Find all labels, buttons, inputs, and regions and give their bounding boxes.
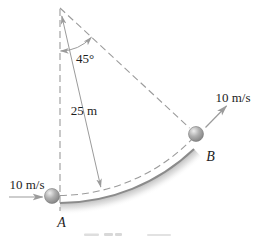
speed-label-a: 10 m/s	[9, 177, 44, 192]
point-b-label: B	[206, 149, 215, 164]
point-a-label: A	[56, 215, 66, 230]
ball-at-a	[45, 189, 60, 204]
track-shading	[60, 149, 203, 215]
radius-label: 25 m	[71, 103, 97, 118]
speed-label-b: 10 m/s	[215, 90, 250, 105]
pendulum-arc-figure: 45° 25 m 10 m/s 10 m/s A B	[0, 0, 262, 236]
angle-label: 45°	[76, 51, 94, 66]
angle-arc	[61, 37, 92, 51]
radius-dimension-line	[62, 16, 101, 187]
diagram-canvas: 45° 25 m 10 m/s 10 m/s A B	[0, 0, 262, 236]
cropped-caption-marks	[84, 233, 171, 236]
ball-at-b	[189, 127, 204, 142]
velocity-arrow-b	[206, 106, 227, 128]
